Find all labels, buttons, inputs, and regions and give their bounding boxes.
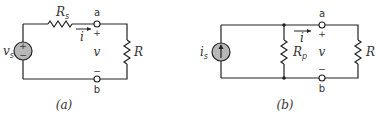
circuit-figure: Rs + − vs R a b i + v − (a) Rp <box>0 0 381 116</box>
label-b-b: b <box>319 83 325 94</box>
panel-b: Rp is R a b i + v − (b) <box>200 8 375 112</box>
label-rp: Rp <box>292 45 307 61</box>
label-v-b: v <box>319 45 326 59</box>
arrow-head-icon <box>307 29 311 33</box>
caption-b: (b) <box>276 98 293 112</box>
label-vs: vs <box>3 44 14 60</box>
voltage-plus-a: + <box>93 28 101 38</box>
caption-a: (a) <box>56 98 73 112</box>
voltage-minus-b: − <box>318 64 326 74</box>
label-v-a: v <box>94 45 101 59</box>
voltage-minus-a: − <box>93 66 101 76</box>
terminal-b <box>94 76 100 82</box>
terminal-a-b <box>319 22 325 28</box>
resistor-rp <box>281 40 287 64</box>
arrow-head-icon <box>87 27 91 31</box>
label-rs: Rs <box>55 5 69 21</box>
label-r-b: R <box>365 45 375 59</box>
terminal-b-b <box>319 75 325 81</box>
panel-a: Rs + − vs R a b i + v − (a) <box>3 5 143 112</box>
wire-loop-b <box>221 25 358 78</box>
label-is: is <box>200 45 208 61</box>
wire-loop-a <box>23 24 127 79</box>
label-i-b: i <box>300 31 304 45</box>
resistor-r-b <box>355 40 361 64</box>
label-a: a <box>94 7 100 18</box>
label-a-b: a <box>319 8 325 19</box>
resistor-rs <box>48 21 72 27</box>
label-b: b <box>94 84 100 95</box>
voltage-plus-b: + <box>318 29 326 39</box>
junction-top <box>282 23 286 27</box>
terminal-a <box>94 21 100 27</box>
source-minus: − <box>19 50 27 60</box>
junction-bottom <box>282 76 286 80</box>
label-r-a: R <box>133 45 143 59</box>
resistor-r-a <box>124 40 130 64</box>
label-i-a: i <box>80 30 84 44</box>
